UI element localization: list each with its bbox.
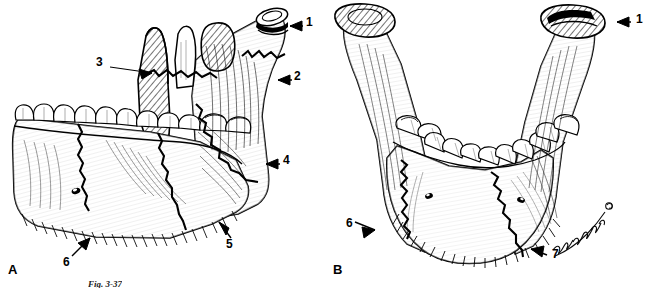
- callout-arrow-1: [290, 21, 303, 31]
- figure-root: 1 2 3 4 5 6: [0, 0, 651, 288]
- callout-label-a-5: 5: [226, 238, 233, 250]
- callout-arrow-b-6: [355, 222, 375, 238]
- callout-arrow-b-1: [617, 17, 631, 27]
- anterior-process-lateral: [175, 26, 196, 88]
- callout-label-b-1: 1: [636, 13, 643, 25]
- mandible-lateral-illustration: [0, 0, 325, 288]
- panel-label-b: B: [333, 262, 342, 277]
- callout-arrow-b-7: [531, 246, 547, 257]
- artist-signature: [553, 203, 612, 256]
- callout-label-a-4: 4: [283, 154, 290, 166]
- panel-b: 1 6 7: [325, 0, 651, 288]
- callout-label-b-6: 6: [346, 217, 353, 229]
- panel-a: 1 2 3 4 5 6: [0, 0, 325, 288]
- mandible-anterior-illustration: [325, 0, 651, 288]
- right-condyle-anterior: [541, 5, 605, 38]
- callout-arrow-2: [278, 75, 292, 85]
- callout-label-b-7: 7: [552, 248, 559, 260]
- callout-label-a-3: 3: [96, 56, 103, 68]
- callout-label-a-1: 1: [306, 16, 313, 28]
- figure-caption: Fig. 3-37: [88, 279, 122, 288]
- callout-arrow-6: [72, 238, 90, 256]
- callout-label-a-2: 2: [294, 70, 301, 82]
- callout-label-a-6: 6: [63, 256, 70, 268]
- panel-label-a: A: [8, 262, 17, 277]
